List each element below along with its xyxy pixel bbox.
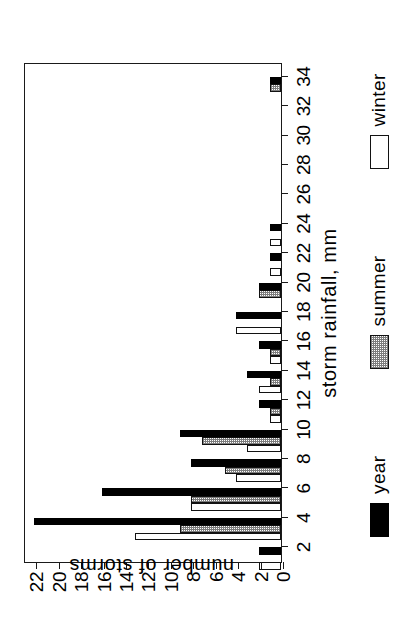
bar-year-6 bbox=[102, 488, 281, 496]
bar-year-10 bbox=[180, 430, 281, 438]
bar-summer-6 bbox=[191, 496, 281, 504]
legend-item-year: year bbox=[368, 455, 390, 537]
value-axis-tick-label: 2 bbox=[251, 572, 270, 610]
category-axis-tick bbox=[281, 340, 288, 341]
value-axis-tick-label: 18 bbox=[72, 572, 91, 610]
category-axis-tick bbox=[281, 517, 288, 518]
bar-winter-6 bbox=[191, 503, 281, 511]
bar-winter-22 bbox=[270, 268, 281, 276]
category-axis-tick bbox=[281, 487, 288, 488]
bar-winter-10 bbox=[247, 445, 281, 453]
bars-layer bbox=[25, 64, 281, 562]
legend-item-summer: summer bbox=[368, 255, 390, 369]
bar-winter-18 bbox=[236, 327, 281, 335]
category-axis-tick bbox=[281, 429, 288, 430]
bar-winter-14 bbox=[259, 386, 281, 394]
bar-year-22 bbox=[270, 253, 281, 261]
category-axis-tick bbox=[281, 546, 288, 547]
category-axis-tick bbox=[281, 164, 288, 165]
value-axis-tick-label: 4 bbox=[229, 572, 248, 610]
category-axis-tick bbox=[281, 311, 288, 312]
bar-summer-8 bbox=[225, 467, 281, 475]
bar-winter-4 bbox=[135, 533, 281, 541]
value-axis-tick-label: 0 bbox=[274, 572, 293, 610]
bar-summer-34 bbox=[270, 84, 281, 92]
bar-winter-12 bbox=[270, 415, 281, 423]
bar-summer-10 bbox=[202, 437, 281, 445]
bar-summer-20 bbox=[259, 290, 281, 298]
bar-year-16 bbox=[259, 341, 281, 349]
bar-year-8 bbox=[191, 459, 281, 467]
bar-summer-4 bbox=[180, 525, 281, 533]
value-axis-title: number of storms bbox=[22, 554, 282, 577]
value-axis-tick-label: 20 bbox=[49, 572, 68, 610]
category-axis-tick bbox=[281, 399, 288, 400]
bar-winter-24 bbox=[270, 239, 281, 247]
bar-year-20 bbox=[259, 283, 281, 291]
legend-item-winter: winter bbox=[368, 73, 390, 169]
legend-swatch-summer bbox=[370, 335, 389, 369]
category-axis-tick bbox=[281, 105, 288, 106]
legend-swatch-winter bbox=[370, 135, 389, 169]
legend-swatch-year bbox=[370, 503, 389, 537]
category-axis-tick-label: 34 bbox=[294, 57, 313, 97]
legend: yearsummerwinter bbox=[368, 73, 390, 537]
chart-rotated-stage: 0246810121416182022246810121416182022242… bbox=[0, 0, 419, 633]
bar-year-4 bbox=[34, 518, 281, 526]
legend-label-summer: summer bbox=[368, 255, 390, 326]
bar-summer-12 bbox=[270, 408, 281, 416]
value-axis-tick-label: 12 bbox=[139, 572, 158, 610]
value-axis-tick-label: 22 bbox=[27, 572, 46, 610]
bar-winter-8 bbox=[236, 474, 281, 482]
legend-label-year: year bbox=[368, 455, 390, 494]
value-axis-tick-label: 6 bbox=[206, 572, 225, 610]
bar-year-34 bbox=[270, 77, 281, 85]
bar-winter-16 bbox=[270, 356, 281, 364]
category-axis-tick bbox=[281, 458, 288, 459]
legend-label-winter: winter bbox=[368, 73, 390, 126]
value-axis-tick-label: 10 bbox=[161, 572, 180, 610]
bar-year-24 bbox=[270, 224, 281, 232]
category-axis-tick bbox=[281, 252, 288, 253]
value-axis-tick-label: 14 bbox=[116, 572, 135, 610]
category-axis-tick bbox=[281, 370, 288, 371]
category-axis-title: storm rainfall, mm bbox=[318, 63, 341, 563]
plot-area: 0246810121416182022246810121416182022242… bbox=[24, 63, 282, 563]
category-axis-tick bbox=[281, 282, 288, 283]
value-axis-tick-label: 16 bbox=[94, 572, 113, 610]
category-axis-tick bbox=[281, 223, 288, 224]
bar-year-18 bbox=[236, 312, 281, 320]
bar-summer-16 bbox=[270, 349, 281, 357]
value-axis-tick bbox=[283, 562, 284, 569]
chart-figure: 0246810121416182022246810121416182022242… bbox=[0, 0, 419, 633]
bar-year-12 bbox=[259, 400, 281, 408]
category-axis-tick bbox=[281, 76, 288, 77]
category-axis-tick bbox=[281, 135, 288, 136]
category-axis-tick bbox=[281, 193, 288, 194]
bar-year-14 bbox=[247, 371, 281, 379]
bar-summer-14 bbox=[270, 378, 281, 386]
value-axis-tick-label: 8 bbox=[184, 572, 203, 610]
